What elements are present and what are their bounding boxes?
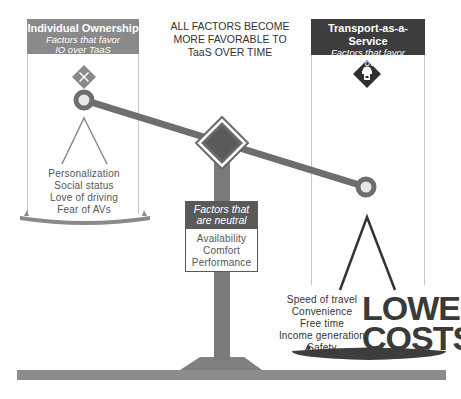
taas-factor-list: Speed of travel Convenience Free time In… [272,294,372,354]
scale-base [17,370,446,380]
lower-costs-line-2: COSTS [362,323,452,353]
left-pan [20,216,150,225]
taas-title: Transport-as-a-Service [311,22,425,48]
left-hanger [62,118,107,164]
taas-header: Transport-as-a-Service Factors that favo… [311,19,425,55]
center-note: ALL FACTORS BECOME MORE FAVORABLE TO Taa… [168,20,292,59]
individual-ownership-header: Individual Ownership Factors that favor … [27,19,139,54]
center-note-line-3: TaaS OVER TIME [168,46,292,59]
neutral-header: Factors that are neutral [186,202,257,229]
neutral-factor-list: Availability Comfort Performance [186,229,257,269]
center-note-line-1: ALL FACTORS BECOME [168,20,292,33]
car-crash-diamond-icon [72,65,96,89]
right-beam-ring [358,179,374,195]
taas-factor: Convenience [272,306,372,318]
taas-factor: Income generation [272,330,372,342]
neutral-header-line-2: are neutral [186,215,257,226]
io-factor: Social status [28,180,140,192]
taas-subtitle-2: TaaS over IO [311,58,425,68]
neutral-factor: Availability [186,233,257,245]
left-beam-ring [76,92,92,108]
taas-factor: Safety [272,342,372,354]
right-hanger [340,217,395,290]
lower-costs-callout: LOWER COSTS [362,293,452,353]
neutral-factors-box: Factors that are neutral Availability Co… [185,201,258,272]
taas-factor: Speed of travel [272,294,372,306]
neutral-factor: Performance [186,257,257,269]
io-factor: Love of driving [28,192,140,204]
individual-ownership-subtitle-2: IO over TaaS [27,45,139,55]
io-factor-list: Personalization Social status Love of dr… [28,168,140,216]
io-factor: Fear of AVs [28,204,140,216]
taas-factor: Free time [272,318,372,330]
center-note-line-2: MORE FAVORABLE TO [168,33,292,46]
io-factor: Personalization [28,168,140,180]
neutral-factor: Comfort [186,245,257,257]
